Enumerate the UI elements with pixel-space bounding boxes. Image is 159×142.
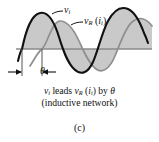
waveform-plot	[0, 0, 159, 90]
phase-angle-label: θ	[40, 66, 45, 76]
curve-label-vr: vR (ii)	[84, 16, 106, 27]
caption-theta: θ	[110, 85, 115, 96]
caption-v-sub: i	[48, 89, 50, 96]
curve-label-vi: vi	[64, 5, 70, 16]
caption-leads: leads	[52, 85, 72, 96]
caption-by: by	[98, 85, 108, 96]
caption-close-paren: )	[93, 85, 96, 96]
subfigure-label: (c)	[0, 122, 159, 133]
vr-leader-line	[71, 22, 83, 25]
vi-leader-line	[52, 11, 63, 14]
caption-line-2: (inductive network)	[0, 97, 159, 108]
caption-line-1: vi leads vR (ii) by θ	[0, 85, 159, 97]
vi-subscript: i	[68, 8, 70, 15]
figure-caption: vi leads vR (ii) by θ (inductive network…	[0, 85, 159, 108]
caption-vr-sub: R	[79, 89, 83, 96]
phase-arrow-left-head	[16, 69, 22, 74]
waveform-figure: vi vR (ii) θ vi leads vR (ii) by θ (indu…	[0, 0, 159, 142]
vr-close-paren: )	[103, 15, 106, 26]
